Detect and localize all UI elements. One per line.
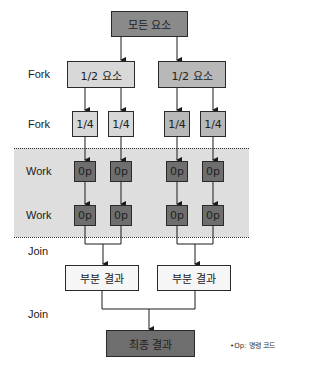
stage-label-work-1: Work bbox=[26, 165, 51, 177]
stage-label-join-1: Join bbox=[28, 245, 48, 257]
all-elements-label: 모든 요소 bbox=[128, 16, 172, 32]
final-result-label: 최종 결과 bbox=[129, 336, 173, 352]
half-elements-label: 1/2 요소 bbox=[171, 67, 212, 83]
half-elements-box-right: 1/2 요소 bbox=[158, 61, 226, 88]
op-label: 0p bbox=[170, 209, 184, 222]
partial-result-box-left: 부분 결과 bbox=[65, 265, 139, 291]
op-label: 0p bbox=[206, 165, 220, 178]
op-label: 0p bbox=[114, 209, 128, 222]
op-box: 0p bbox=[74, 161, 96, 182]
op-box: 0p bbox=[166, 205, 188, 226]
op-box: 0p bbox=[110, 205, 132, 226]
quarter-box: 1/4 bbox=[108, 111, 134, 137]
op-label: 0p bbox=[78, 209, 92, 222]
op-box: 0p bbox=[202, 161, 224, 182]
op-label: 0p bbox=[170, 165, 184, 178]
stage-label-fork-1: Fork bbox=[28, 68, 50, 80]
stage-label-fork-2: Fork bbox=[28, 118, 50, 130]
quarter-box: 1/4 bbox=[200, 111, 226, 137]
partial-result-label: 부분 결과 bbox=[172, 270, 216, 286]
footnote: •Op: 명령 코드 bbox=[230, 340, 275, 350]
quarter-box: 1/4 bbox=[164, 111, 190, 137]
quarter-label: 1/4 bbox=[204, 118, 222, 131]
op-box: 0p bbox=[74, 205, 96, 226]
final-result-box: 최종 결과 bbox=[106, 330, 195, 357]
op-box: 0p bbox=[110, 161, 132, 182]
stage-label-work-2: Work bbox=[26, 209, 51, 221]
quarter-label: 1/4 bbox=[112, 118, 130, 131]
quarter-box: 1/4 bbox=[72, 111, 98, 137]
half-elements-label: 1/2 요소 bbox=[80, 67, 121, 83]
quarter-label: 1/4 bbox=[168, 118, 186, 131]
op-label: 0p bbox=[78, 165, 92, 178]
op-label: 0p bbox=[206, 209, 220, 222]
half-elements-box-left: 1/2 요소 bbox=[67, 61, 135, 88]
quarter-label: 1/4 bbox=[76, 118, 94, 131]
partial-result-box-right: 부분 결과 bbox=[157, 265, 231, 291]
op-box: 0p bbox=[202, 205, 224, 226]
all-elements-box: 모든 요소 bbox=[111, 11, 188, 37]
op-label: 0p bbox=[114, 165, 128, 178]
partial-result-label: 부분 결과 bbox=[80, 270, 124, 286]
stage-label-join-2: Join bbox=[28, 308, 48, 320]
op-box: 0p bbox=[166, 161, 188, 182]
